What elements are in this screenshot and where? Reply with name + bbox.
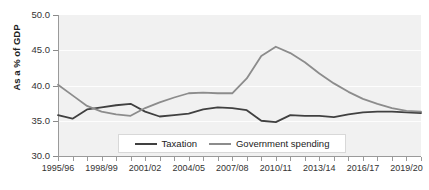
line-chart: As a % of GDP 50.045.040.035.030.0 1995/…	[0, 0, 429, 190]
legend-entry-government-spending: Government spending	[209, 138, 329, 149]
series-layer	[0, 0, 429, 190]
legend-label-government-spending: Government spending	[236, 138, 329, 149]
chart-legend: Taxation Government spending	[118, 134, 346, 153]
legend-swatch-government-spending	[209, 143, 231, 145]
legend-label-taxation: Taxation	[162, 138, 197, 149]
legend-entry-taxation: Taxation	[135, 138, 197, 149]
legend-swatch-taxation	[135, 143, 157, 145]
